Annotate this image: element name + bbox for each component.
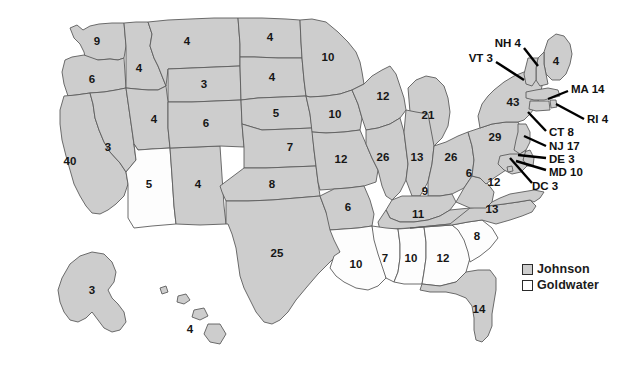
state-CT[interactable] xyxy=(529,101,550,111)
ev-label-IA: 10 xyxy=(329,108,342,120)
state-HI-2[interactable] xyxy=(177,294,190,304)
legend-swatch-goldwater xyxy=(522,280,533,291)
ev-label-VA: 12 xyxy=(488,176,501,188)
state-HI-4[interactable] xyxy=(204,324,226,344)
ev-label-GA: 12 xyxy=(437,252,450,264)
legend-label-goldwater: Goldwater xyxy=(537,278,599,292)
ev-label-TN: 11 xyxy=(412,208,425,220)
ev-label-MO: 12 xyxy=(335,153,348,165)
ev-label-ID: 4 xyxy=(136,62,143,74)
ev-label-MT: 4 xyxy=(184,35,191,47)
state-HI-1[interactable] xyxy=(160,286,168,294)
legend-swatch-johnson xyxy=(522,264,533,275)
callout-label-DE: DE 3 xyxy=(549,153,575,165)
ev-label-OH: 26 xyxy=(445,151,458,163)
ev-label-LA: 10 xyxy=(350,258,363,270)
ev-label-ME: 4 xyxy=(553,55,560,67)
leader-RI xyxy=(556,104,584,119)
ev-label-MS: 7 xyxy=(382,252,388,264)
ev-label-NM: 4 xyxy=(195,178,202,190)
callout-label-RI: RI 4 xyxy=(587,113,609,125)
ev-label-FL: 14 xyxy=(473,303,486,315)
ev-label-WV: 6 xyxy=(466,167,472,179)
ev-label-KY: 9 xyxy=(422,185,428,197)
ev-label-OK: 8 xyxy=(269,178,276,190)
callout-label-NJ: NJ 17 xyxy=(549,140,580,152)
ev-label-KS: 7 xyxy=(287,141,293,153)
legend-item-goldwater[interactable]: Goldwater xyxy=(522,277,599,293)
state-DC[interactable] xyxy=(507,166,513,172)
ev-label-MN: 10 xyxy=(322,51,335,63)
ev-label-NY: 43 xyxy=(507,96,520,108)
electoral-map-figure: 9 6 40 3 4 4 3 4 5 4 6 4 4 5 7 8 25 10 1… xyxy=(0,0,639,370)
ev-label-AR: 6 xyxy=(345,201,351,213)
ev-label-PA: 29 xyxy=(489,131,502,143)
us-map-svg: 9 6 40 3 4 4 3 4 5 4 6 4 4 5 7 8 25 10 1… xyxy=(0,0,639,370)
ev-label-WI: 12 xyxy=(377,90,390,102)
ev-label-SD: 4 xyxy=(269,71,276,83)
ev-label-IL: 26 xyxy=(377,151,390,163)
ev-label-WY: 3 xyxy=(201,78,207,90)
state-RI[interactable] xyxy=(550,100,557,108)
ev-label-ND: 4 xyxy=(267,31,274,43)
ev-label-NC: 13 xyxy=(486,203,499,215)
callout-label-MD: MD 10 xyxy=(549,166,583,178)
ev-label-OR: 6 xyxy=(89,73,95,85)
ev-label-NE: 5 xyxy=(273,107,280,119)
leader-VT xyxy=(496,62,524,80)
ev-label-HI: 4 xyxy=(187,323,194,335)
leader-CT xyxy=(528,112,546,131)
ev-label-AK: 3 xyxy=(89,284,95,296)
ev-label-IN: 13 xyxy=(411,151,424,163)
state-KS[interactable] xyxy=(242,124,316,168)
state-TX[interactable] xyxy=(226,196,342,324)
ev-label-MI: 21 xyxy=(422,109,435,121)
legend-label-johnson: Johnson xyxy=(537,262,590,276)
ev-label-WA: 9 xyxy=(94,35,100,47)
ev-label-SC: 8 xyxy=(474,230,481,242)
callout-label-CT: CT 8 xyxy=(549,126,575,138)
callout-label-DC: DC 3 xyxy=(532,180,558,192)
ev-label-AZ: 5 xyxy=(146,178,153,190)
callout-label-NH: NH 4 xyxy=(495,37,522,49)
ev-label-AL: 10 xyxy=(405,252,418,264)
ev-label-CA: 40 xyxy=(64,155,77,167)
ev-label-NV: 3 xyxy=(105,141,111,153)
ev-label-TX: 25 xyxy=(271,247,284,259)
ev-label-UT: 4 xyxy=(151,113,158,125)
ev-label-CO: 6 xyxy=(203,117,209,129)
callout-label-MA: MA 14 xyxy=(571,83,605,95)
map-legend: Johnson Goldwater xyxy=(522,261,599,293)
state-HI-3[interactable] xyxy=(192,308,208,320)
legend-item-johnson[interactable]: Johnson xyxy=(522,261,599,277)
callout-label-VT: VT 3 xyxy=(469,52,493,64)
